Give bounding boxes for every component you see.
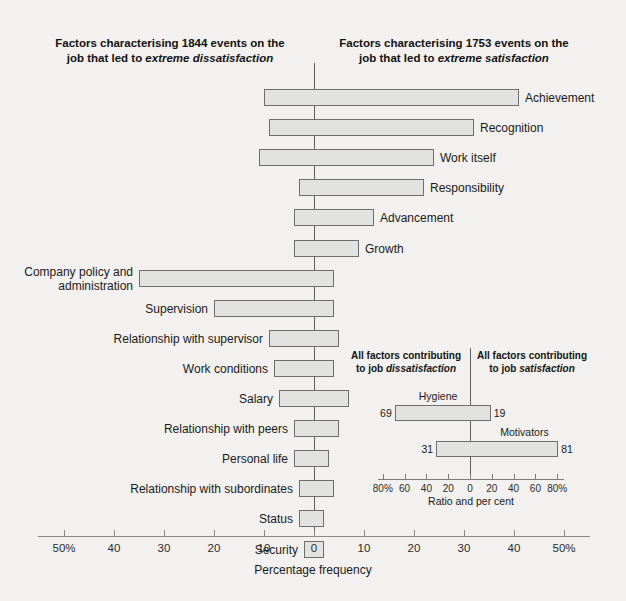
x-axis-title: Percentage frequency	[0, 563, 626, 577]
x-tick	[214, 530, 215, 536]
bar-label-advancement: Advancement	[380, 211, 453, 225]
bar-label-growth: Growth	[365, 242, 404, 256]
bar-label-work-itself: Work itself	[440, 151, 496, 165]
inset-heading-satisfaction: All factors contributing to job satisfac…	[473, 350, 591, 375]
inset-x-tick-label: 0	[467, 483, 473, 494]
bar-relationship-with-supervisor	[269, 330, 339, 347]
bar-growth	[294, 240, 359, 257]
inset-x-tick	[448, 474, 449, 479]
inset-x-tick	[514, 474, 515, 479]
bar-work-conditions	[274, 360, 334, 377]
heading-dissatisfaction-emphasis: extreme dissatisfaction	[145, 52, 273, 64]
inset-heading-satisfaction-emphasis: satisfaction	[519, 363, 575, 374]
inset-x-tick	[383, 474, 384, 479]
inset-x-tick-label: 80%	[547, 483, 567, 494]
inset-bar-hygiene	[395, 405, 491, 421]
x-tick-label: 20	[408, 542, 421, 554]
inset-bar-name-motivators: Motivators	[500, 426, 548, 438]
x-tick	[464, 530, 465, 536]
x-tick	[564, 530, 565, 536]
inset-x-tick	[535, 474, 536, 479]
bar-label-salary: Salary	[239, 392, 273, 406]
bar-work-itself	[259, 149, 434, 166]
inset-heading-dissatisfaction-emphasis: dissatisfaction	[386, 363, 456, 374]
bar-achievement	[264, 89, 519, 106]
inset-value-right-motivators: 81	[561, 441, 573, 457]
x-tick	[264, 530, 265, 536]
inset-chart: All factors contributing to job dissatis…	[347, 348, 609, 506]
bar-personal-life	[294, 450, 329, 467]
inset-x-axis-line	[378, 479, 564, 480]
x-tick-label: 40	[108, 542, 121, 554]
inset-value-right-hygiene: 19	[494, 405, 506, 421]
bar-label-work-conditions: Work conditions	[183, 362, 268, 376]
inset-x-tick-label: 60	[399, 483, 410, 494]
x-tick-label: 40	[508, 542, 521, 554]
bar-label-relationship-with-peers: Relationship with peers	[164, 422, 288, 436]
bar-label-supervision: Supervision	[145, 302, 208, 316]
inset-x-tick-label: 40	[508, 483, 519, 494]
inset-bar-name-hygiene: Hygiene	[419, 390, 458, 402]
bar-label-relationship-with-supervisor: Relationship with supervisor	[114, 332, 263, 346]
heading-dissatisfaction: Factors characterising 1844 events on th…	[46, 36, 294, 66]
bar-label-relationship-with-subordinates: Relationship with subordinates	[130, 482, 293, 496]
inset-x-tick-label: 20	[443, 483, 454, 494]
bar-recognition	[269, 119, 474, 136]
inset-x-tick	[557, 474, 558, 479]
x-tick	[514, 530, 515, 536]
inset-x-tick-label: 40	[421, 483, 432, 494]
x-tick	[114, 530, 115, 536]
inset-x-tick	[492, 474, 493, 479]
bar-label-personal-life: Personal life	[222, 452, 288, 466]
herzberg-chart: Factors characterising 1844 events on th…	[0, 0, 626, 601]
inset-x-tick	[470, 474, 471, 479]
bar-relationship-with-peers	[294, 420, 339, 437]
x-tick	[314, 530, 315, 536]
inset-value-left-motivators: 31	[422, 441, 434, 457]
bar-company-policy-and-administration	[139, 270, 334, 287]
inset-x-tick	[405, 474, 406, 479]
x-tick-label: 30	[158, 542, 171, 554]
inset-bar-motivators	[436, 441, 558, 457]
x-tick	[364, 530, 365, 536]
x-tick	[414, 530, 415, 536]
heading-satisfaction-emphasis: extreme satisfaction	[438, 52, 549, 64]
x-tick-label: 20	[208, 542, 221, 554]
x-tick	[64, 530, 65, 536]
bar-label-recognition: Recognition	[480, 121, 543, 135]
inset-x-tick-label: 80%	[373, 483, 393, 494]
inset-x-tick-label: 20	[486, 483, 497, 494]
x-tick	[164, 530, 165, 536]
bar-label-responsibility: Responsibility	[430, 181, 504, 195]
bar-supervision	[214, 300, 334, 317]
inset-heading-dissatisfaction: All factors contributing to job dissatis…	[347, 350, 465, 375]
bar-salary	[279, 390, 349, 407]
bar-relationship-with-subordinates	[299, 480, 334, 497]
bar-label-company-policy-and-administration: Company policy and administration	[13, 265, 133, 293]
heading-satisfaction: Factors characterising 1753 events on th…	[330, 36, 578, 66]
inset-x-axis-title: Ratio and per cent	[347, 495, 595, 507]
bar-responsibility	[299, 179, 424, 196]
x-axis-line	[38, 536, 590, 537]
bar-status	[299, 510, 324, 527]
bar-label-achievement: Achievement	[525, 91, 594, 105]
inset-x-tick-label: 60	[530, 483, 541, 494]
x-tick-label: 10	[358, 542, 371, 554]
inset-x-tick	[426, 474, 427, 479]
inset-value-left-hygiene: 69	[380, 405, 392, 421]
x-tick-label: 0	[311, 542, 317, 554]
x-tick-label: 50%	[552, 542, 575, 554]
bar-label-status: Status	[259, 512, 293, 526]
x-tick-label: 50%	[52, 542, 75, 554]
bar-advancement	[294, 209, 374, 226]
x-tick-label: 10	[258, 542, 271, 554]
x-tick-label: 30	[458, 542, 471, 554]
